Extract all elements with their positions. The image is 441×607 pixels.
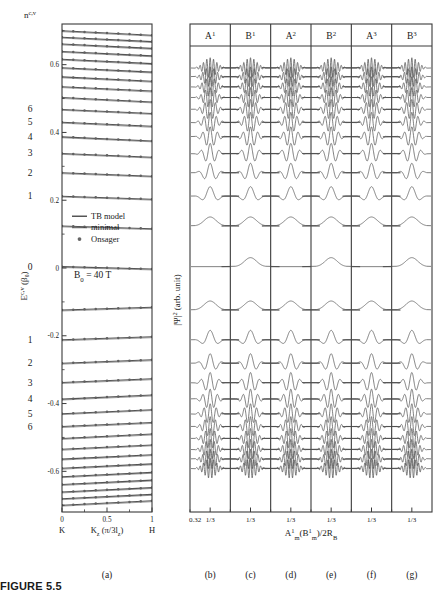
onsager-dot	[106, 446, 109, 449]
onsager-dot	[140, 359, 143, 362]
onsager-dot	[140, 494, 143, 497]
onsager-dot	[72, 136, 75, 139]
onsager-dot	[117, 423, 120, 426]
panel-label-e: (e)	[326, 570, 337, 581]
onsager-dot	[83, 411, 86, 414]
onsager-dot	[95, 196, 98, 199]
legend-swatch-onsager	[78, 237, 82, 241]
onsager-dot	[106, 173, 109, 176]
onsager-dot	[117, 495, 120, 498]
onsager-dot	[106, 502, 109, 505]
onsager-dot	[72, 503, 75, 506]
onsager-dot	[140, 47, 143, 50]
panel-a-xlabel: Kz (π/3lz)	[91, 525, 124, 537]
onsager-dot	[128, 494, 131, 497]
figure-caption-label: FIGURE	[0, 580, 43, 592]
onsager-dot	[140, 174, 143, 177]
onsager-dot	[95, 474, 98, 477]
panel-wave-column-header: A3	[366, 30, 377, 42]
panel-label-c: (c)	[245, 570, 256, 581]
onsager-dot	[95, 396, 98, 399]
onsager-dot	[140, 422, 143, 425]
onsager-dot	[106, 456, 109, 459]
onsager-dot	[117, 455, 120, 458]
onsager-dot	[128, 445, 131, 448]
onsager-dot	[72, 397, 75, 400]
onsager-dot	[117, 111, 120, 114]
panel-wave-xtick-label: 1/3	[206, 516, 215, 524]
onsager-dot	[128, 46, 131, 49]
panel-wave-column-header: B1	[246, 30, 256, 42]
panel-a-ytick-label: -0.4	[48, 400, 60, 408]
onsager-dot	[95, 68, 98, 71]
onsager-dot	[83, 447, 86, 450]
figure-caption-number: 5.5	[46, 580, 62, 592]
onsager-dot	[128, 336, 131, 339]
onsager-dot	[95, 77, 98, 80]
onsager-dot	[95, 436, 98, 439]
onsager-dot	[83, 338, 86, 341]
onsager-dot	[95, 266, 98, 269]
onsager-dot	[72, 43, 75, 46]
onsager-dot	[72, 86, 75, 89]
onsager-dot	[140, 79, 143, 82]
onsager-dot	[106, 379, 109, 382]
onsager-dot	[106, 196, 109, 199]
onsager-dot	[72, 225, 75, 228]
onsager-dot	[106, 123, 109, 126]
onsager-dot	[140, 463, 143, 466]
onsager-dot	[83, 436, 86, 439]
onsager-dot	[128, 487, 131, 490]
legend-label: TB model	[91, 211, 126, 221]
onsager-dot	[140, 112, 143, 115]
onsager-dot	[128, 111, 131, 114]
onsager-dot	[140, 139, 143, 142]
panel-a-xpoint-H: H	[149, 525, 155, 535]
panel-a-ytick-label: 0.6	[50, 61, 59, 69]
onsager-dot	[95, 489, 98, 492]
onsager-dot	[83, 196, 86, 199]
onsager-dot	[128, 227, 131, 230]
panel-a-n-label-upper: 2	[28, 168, 33, 178]
onsager-dot	[128, 395, 131, 398]
onsager-dot	[117, 410, 120, 413]
onsager-dot	[117, 445, 120, 448]
panel-a-ytick-label: -0.6	[48, 468, 60, 476]
onsager-dot	[117, 434, 120, 437]
onsager-dot	[72, 266, 75, 269]
onsager-dot	[106, 45, 109, 48]
panel-a-quantum-number-label: nc,v	[24, 9, 37, 21]
onsager-dot	[106, 481, 109, 484]
onsager-dot	[140, 306, 143, 309]
onsager-dot	[72, 497, 75, 500]
onsager-dot	[72, 76, 75, 79]
onsager-dot	[106, 465, 109, 468]
onsager-dot	[95, 361, 98, 364]
onsager-dot	[95, 456, 98, 459]
panel-wave-column-header: A1	[205, 30, 215, 42]
onsager-dot	[117, 45, 120, 48]
onsager-dot	[128, 472, 131, 475]
onsager-dot	[128, 70, 131, 73]
onsager-dot	[83, 44, 86, 47]
panel-a-ytick-label: 0.2	[50, 197, 59, 205]
onsager-dot	[117, 124, 120, 127]
panel-wave-column-header: B3	[407, 30, 417, 42]
onsager-dot	[140, 62, 143, 65]
onsager-dot	[95, 465, 98, 468]
onsager-dot	[106, 154, 109, 157]
panel-a-n-label-upper: 6	[28, 104, 33, 114]
onsager-dot	[72, 475, 75, 478]
panel-a-n-label-upper: 5	[28, 117, 33, 127]
onsager-dot	[72, 448, 75, 451]
onsager-dot	[72, 437, 75, 440]
onsager-dot	[106, 88, 109, 91]
onsager-dot	[117, 379, 120, 382]
onsager-dot	[83, 397, 86, 400]
onsager-dot	[83, 97, 86, 100]
onsager-dot	[95, 496, 98, 499]
panel-a-ytick-label: 0	[55, 265, 59, 273]
onsager-dot	[72, 362, 75, 365]
onsager-dot	[128, 378, 131, 381]
onsager-dot	[128, 100, 131, 103]
